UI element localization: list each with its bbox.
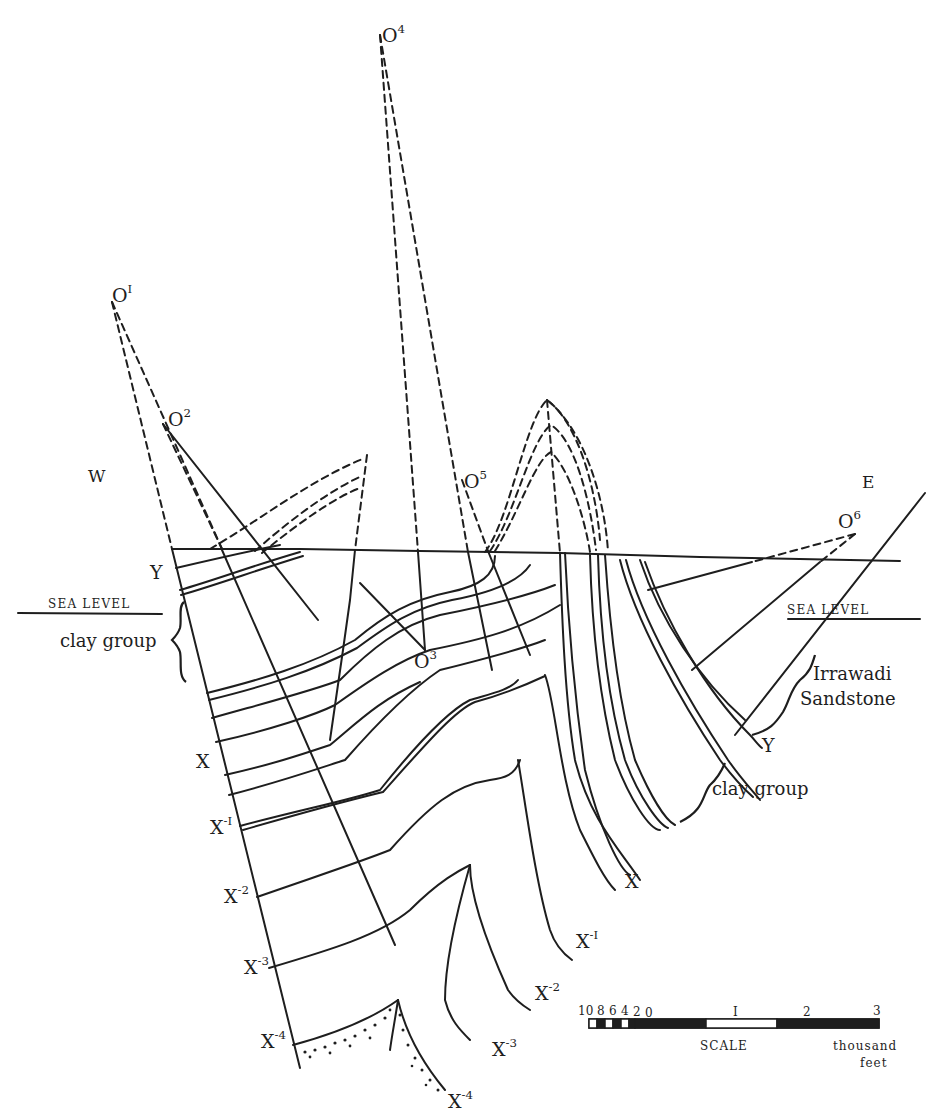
horizon-label-x-minus1-west: X-I [210, 818, 232, 837]
horizon-label-x-minus2-east: X-2 [535, 984, 560, 1003]
direction-east-label: E [862, 474, 874, 491]
scale-tick-1: I [733, 1006, 738, 1018]
dashed-anticline-axis [547, 400, 560, 553]
sea-level-line-west [18, 613, 162, 614]
sea-level-label-east: SEA LEVEL [787, 604, 869, 616]
sea-level-label-west: SEA LEVEL [48, 598, 130, 610]
dashed-fault-up [355, 455, 367, 550]
scale-label: SCALE [700, 1040, 748, 1052]
dashed-o6-a [752, 534, 855, 562]
scale-bar [589, 1019, 879, 1028]
unit-label-irrawadi-line1: Irrawadi [813, 665, 891, 683]
centre-label-o4: O4 [382, 26, 405, 45]
scale-subtick-4: 4 [621, 1005, 629, 1017]
east-bed-3 [640, 560, 745, 720]
centre-label-o2: O2 [168, 410, 191, 429]
horizon-label-y-east: Y [762, 736, 775, 755]
dashed-arc-2 [255, 476, 362, 551]
cross-section-figure: OI O2 O3 O4 O5 O6 W E Y X X-I X-2 X-3 X-… [0, 0, 941, 1120]
centre-label-o3: O3 [414, 652, 437, 671]
fold-x-minus1-e [518, 760, 572, 960]
cross-section-drawing [0, 0, 941, 1120]
fold-x-minus2-e [470, 865, 530, 1010]
fold-x-minus4-inner [390, 1000, 398, 1050]
bed-x-upper [225, 682, 420, 775]
horizon-label-x-minus4-west: X-4 [261, 1032, 286, 1051]
fold-x-minus3-e [445, 865, 470, 1040]
conglomerate-dots [303, 1009, 439, 1092]
centre-label-o6: O6 [838, 512, 861, 531]
fold-x-minus4-e [398, 1000, 445, 1090]
direction-west-label: W [88, 468, 105, 485]
radius-line-o6a [648, 562, 752, 590]
horizon-label-x-west: X [196, 752, 210, 771]
scale-tick-3: 3 [873, 1005, 881, 1017]
horizon-label-x-east: X [625, 872, 639, 891]
bed-clay-1 [207, 556, 495, 693]
unit-label-irrawadi-line2: Sandstone [800, 690, 896, 708]
horizon-label-x-minus3-east: X-3 [492, 1040, 517, 1059]
bed-y-lower-a [180, 552, 300, 590]
horizon-label-x-minus1-east: X-I [576, 932, 598, 951]
bed-x-minus3 [269, 865, 470, 968]
scale-unit-line2: feet [860, 1057, 887, 1069]
scale-subtick-10: 10 [578, 1005, 593, 1017]
horizon-label-x-minus4-east: X-4 [448, 1092, 473, 1111]
scale-subtick-8: 8 [597, 1005, 605, 1017]
bed-x-minus4 [293, 1000, 398, 1045]
east-bed-1 [620, 560, 753, 797]
western-boundary-line [172, 549, 300, 1068]
radius-line-o5a [468, 552, 492, 670]
scale-tick-2: 2 [803, 1006, 811, 1018]
unit-label-clay-group-east: clay group [712, 780, 809, 798]
scale-subtick-6: 6 [609, 1005, 617, 1017]
horizon-label-x-minus3-west: X-3 [244, 958, 269, 977]
unit-label-clay-group-west: clay group [60, 632, 157, 650]
fault-line-west [330, 550, 355, 740]
horizon-label-x-minus2-west: X-2 [224, 887, 249, 906]
dashed-arc-3 [262, 488, 360, 553]
dashed-anticline-3 [495, 452, 590, 552]
core-line-2 [565, 553, 630, 875]
dashed-o4-a [380, 35, 418, 552]
brace-clay-west [172, 602, 186, 682]
horizon-label-y-west: Y [150, 563, 163, 582]
scale-subtick-2: 2 [633, 1006, 641, 1018]
bed-clay-3 [212, 585, 555, 718]
dashed-arc-1 [210, 458, 365, 549]
centre-label-o5: O5 [464, 472, 487, 491]
dashed-o4-b [380, 35, 468, 552]
bed-x-lower [229, 640, 545, 795]
core-line-5 [605, 555, 675, 825]
scale-unit-line1: thousand [833, 1040, 897, 1052]
scale-subtick-0: 0 [645, 1007, 653, 1019]
centre-label-o1: OI [112, 286, 132, 305]
east-bed-2 [626, 560, 760, 800]
